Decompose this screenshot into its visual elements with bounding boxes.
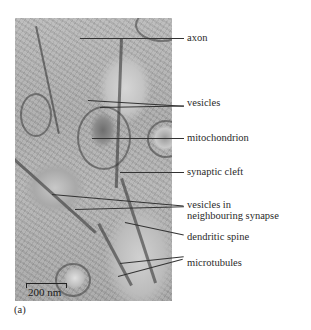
label-axon: axon — [187, 32, 207, 43]
vesicle-cluster-membrane — [147, 120, 172, 158]
label-synaptic-cleft: synaptic cleft — [187, 166, 243, 177]
synaptic-cleft-leader-line — [120, 172, 184, 173]
scale-bar-label: 200 nm — [28, 286, 61, 298]
spine-membrane-line — [97, 223, 133, 286]
label-vesicles-in: vesicles in — [187, 199, 231, 210]
label-neighbouring-synapse: neighbouring synapse — [187, 210, 279, 221]
label-vesicles: vesicles — [187, 97, 220, 108]
figure: 200 nm axon vesicles mitochondrion synap… — [0, 0, 311, 330]
left-process-membrane — [20, 93, 52, 137]
panel-label: (a) — [14, 304, 26, 315]
label-microtubules: microtubules — [187, 257, 242, 268]
label-dendritic-spine: dendritic spine — [187, 231, 249, 242]
electron-micrograph — [15, 18, 172, 301]
axon-leader-line — [80, 38, 184, 39]
label-mitochondrion: mitochondrion — [187, 132, 249, 143]
mitochondrion-leader-line — [92, 138, 184, 139]
